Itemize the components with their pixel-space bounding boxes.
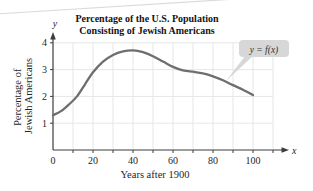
y-axis-letter: y [52,18,58,29]
chart-title-line1: Percentage of the U.S. Population [75,13,219,24]
x-axis-letter: x [291,145,297,156]
grid [53,43,273,150]
y-tick-label: 3 [42,64,47,75]
y-tick-label: 4 [42,37,47,48]
textbook-figure: 0204060801001234 Percentage of the U.S. … [0,0,313,191]
x-tick-label: 20 [88,155,98,166]
x-tick-label: 80 [208,155,218,166]
y-axis-title: Percentage of Jewish Americans [12,58,34,134]
x-tick-label: 100 [246,155,261,166]
x-tick-label: 60 [168,155,178,166]
chart-canvas: 0204060801001234 Percentage of the U.S. … [0,0,313,191]
callout-tail [226,56,253,81]
chart-title-line2: Consisting of Jewish Americans [79,25,214,36]
curve-label: y = f(x) [249,45,279,56]
curve-label-callout: y = f(x) [226,40,289,81]
y-axis-title-line2: Jewish Americans [23,58,34,134]
x-axis-arrowhead [282,147,290,153]
x-tick-label: 0 [51,155,56,166]
y-tick-label: 1 [42,118,47,129]
x-tick-label: 40 [128,155,138,166]
page-edge-artifact [0,0,252,14]
y-axis-arrowhead [50,32,56,40]
x-axis-title: Years after 1900 [121,169,190,180]
y-axis-title-line1: Percentage of [12,68,23,126]
y-tick-label: 2 [42,91,47,102]
